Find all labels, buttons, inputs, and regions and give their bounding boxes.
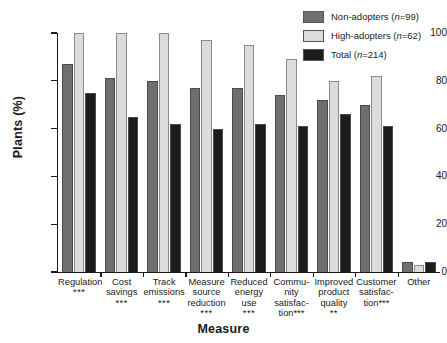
significance-stars: ***: [228, 308, 270, 318]
bar[interactable]: [85, 93, 96, 272]
bar[interactable]: [360, 105, 371, 272]
bar[interactable]: [414, 265, 425, 272]
significance-stars: ***: [143, 298, 185, 308]
bar-group: [143, 33, 185, 272]
bar[interactable]: [116, 33, 127, 272]
bar[interactable]: [383, 126, 394, 272]
bar[interactable]: [298, 126, 309, 272]
legend-swatch-non-adopters: [303, 11, 324, 23]
y-tick-mark: [51, 224, 57, 225]
x-axis-line: [57, 272, 440, 273]
y-tick-mark: [51, 32, 57, 33]
bar[interactable]: [317, 100, 328, 272]
y-tick-mark: [51, 80, 57, 81]
y-tick-mark: [51, 271, 57, 272]
bar[interactable]: [201, 40, 212, 272]
bar[interactable]: [159, 33, 170, 272]
x-category-label: Trackemissions***: [143, 277, 185, 308]
bar-group: [228, 33, 270, 272]
bar[interactable]: [128, 117, 139, 272]
bar-group: [313, 33, 355, 272]
bar[interactable]: [213, 129, 224, 272]
y-tick-mark: [51, 128, 57, 129]
y-tick-mark: [51, 176, 57, 177]
bar[interactable]: [105, 78, 116, 272]
bar[interactable]: [74, 33, 85, 272]
bar-group: [270, 33, 312, 272]
bar[interactable]: [371, 76, 382, 272]
y-axis-title: Plants (%): [11, 82, 25, 172]
bar-group: [398, 33, 440, 272]
bar[interactable]: [244, 45, 255, 272]
bar[interactable]: [62, 64, 73, 272]
significance-stars: **: [313, 308, 355, 318]
significance-stars: ***: [58, 287, 100, 297]
bar[interactable]: [190, 88, 201, 272]
x-category-label: Customersatisfac-tion***: [355, 277, 397, 308]
bar[interactable]: [255, 124, 266, 272]
bar-group: [185, 33, 227, 272]
bar[interactable]: [340, 114, 351, 272]
x-category-label: Improvedproductquality**: [313, 277, 355, 318]
significance-stars: ***: [185, 308, 227, 318]
bar[interactable]: [402, 262, 413, 272]
x-category-label: Regulation***: [58, 277, 100, 297]
bar[interactable]: [425, 262, 436, 272]
x-axis-category-labels: Regulation***Costsavings***Trackemission…: [58, 277, 440, 325]
x-category-label: Other: [398, 277, 440, 287]
x-category-label: Commu-nitysatisfac-tion***: [270, 277, 312, 319]
x-category-label: Measuresourcereduction***: [185, 277, 227, 318]
plot-area: [58, 33, 440, 272]
x-category-label: Reducedenergyuse***: [228, 277, 270, 318]
bar[interactable]: [329, 81, 340, 272]
bar-chart: Non-adopters (n=99) High-adopters (n=62)…: [0, 0, 447, 343]
bar-group: [355, 33, 397, 272]
bar-group: [58, 33, 100, 272]
x-category-label: Costsavings***: [100, 277, 142, 308]
bar[interactable]: [232, 88, 243, 272]
bar[interactable]: [170, 124, 181, 272]
bar[interactable]: [286, 59, 297, 272]
legend-label-non-adopters: Non-adopters (n=99): [331, 11, 419, 22]
significance-stars: ***: [100, 298, 142, 308]
bar-group: [100, 33, 142, 272]
bar[interactable]: [147, 81, 158, 272]
legend-item-non-adopters[interactable]: Non-adopters (n=99): [303, 10, 421, 23]
bar[interactable]: [275, 95, 286, 272]
